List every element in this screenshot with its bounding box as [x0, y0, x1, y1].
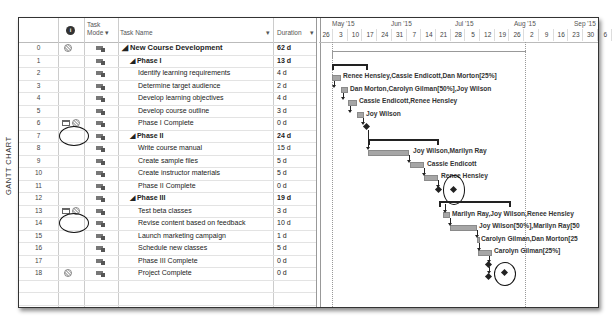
row-number[interactable]: 15: [19, 230, 58, 243]
task-bar-10[interactable]: [424, 175, 438, 181]
recurring-task-icon[interactable]: [64, 269, 72, 277]
row-number[interactable]: 1: [19, 55, 58, 68]
task-mode-cell[interactable]: [84, 130, 118, 143]
row-number[interactable]: 13: [19, 205, 58, 218]
task-name-cell[interactable]: Determine target audience: [118, 80, 294, 93]
note-icon[interactable]: [62, 120, 70, 126]
task-name-cell[interactable]: Launch marketing campaign: [118, 230, 294, 243]
table-row[interactable]: 8Write course manual15 d: [19, 142, 316, 156]
task-mode-cell[interactable]: [84, 180, 118, 193]
task-mode-cell[interactable]: [84, 192, 118, 205]
task-name-cell[interactable]: Schedule new classes: [118, 242, 294, 255]
task-name-cell[interactable]: Phase III Complete: [118, 255, 294, 268]
task-name-cell[interactable]: Create instructor materials: [118, 167, 294, 180]
task-bar-14[interactable]: [450, 225, 477, 231]
table-row[interactable]: 17Phase III Complete0 d: [19, 255, 316, 269]
task-name-cell[interactable]: Create sample files: [118, 155, 294, 168]
summary-bar-phase-2[interactable]: [368, 139, 439, 141]
row-number[interactable]: 9: [19, 155, 58, 168]
duration-cell[interactable]: 5 d: [274, 167, 316, 180]
row-number[interactable]: 6: [19, 117, 58, 130]
task-name-cell[interactable]: ◢ New Course Development: [118, 42, 278, 55]
row-number[interactable]: 8: [19, 142, 58, 155]
duration-cell[interactable]: 10 d: [274, 217, 316, 230]
task-bar-9[interactable]: [410, 162, 424, 168]
task-name-cell[interactable]: Test beta classes: [118, 205, 294, 218]
duration-cell[interactable]: 2 d: [274, 80, 316, 93]
row-number[interactable]: 16: [19, 242, 58, 255]
table-row[interactable]: 11Phase II Complete0 d: [19, 180, 316, 194]
task-mode-cell[interactable]: [84, 242, 118, 255]
duration-filter-arrow[interactable]: ▾: [310, 29, 314, 37]
task-mode-cell[interactable]: [84, 255, 118, 268]
table-row[interactable]: 1◢ Phase I13 d: [19, 55, 316, 69]
task-mode-cell[interactable]: [84, 42, 118, 55]
row-number[interactable]: 4: [19, 92, 58, 105]
task-mode-cell[interactable]: [84, 117, 118, 130]
duration-cell[interactable]: 0 d: [274, 267, 316, 280]
row-number[interactable]: 0: [19, 42, 58, 55]
task-mode-cell[interactable]: [84, 217, 118, 230]
task-mode-cell[interactable]: [84, 230, 118, 243]
task-mode-cell[interactable]: [84, 105, 118, 118]
empty-row[interactable]: [19, 292, 316, 306]
duration-cell[interactable]: 15 d: [274, 142, 316, 155]
duration-cell[interactable]: 62 d: [274, 42, 316, 55]
duration-cell[interactable]: 0 d: [274, 255, 316, 268]
task-name-cell[interactable]: ◢ Phase I: [118, 55, 286, 68]
row-number[interactable]: 3: [19, 80, 58, 93]
summary-bar-phase-3[interactable]: [439, 201, 511, 203]
task-name-cell[interactable]: Revise content based on feedback: [118, 217, 294, 230]
table-row[interactable]: 16Schedule new classes5 d: [19, 242, 316, 256]
duration-cell[interactable]: 13 d: [274, 55, 316, 68]
duration-cell[interactable]: 0 d: [274, 117, 316, 130]
task-name-cell[interactable]: Identify learning requirements: [118, 67, 294, 80]
task-mode-cell[interactable]: [84, 142, 118, 155]
duration-cell[interactable]: 4 d: [274, 92, 316, 105]
task-name-cell[interactable]: ◢ Phase II: [118, 130, 286, 143]
row-number[interactable]: 5: [19, 105, 58, 118]
task-mode-cell[interactable]: [84, 167, 118, 180]
table-row[interactable]: 5Develop course outline3 d: [19, 105, 316, 119]
task-name-header[interactable]: Task Name ▾: [120, 29, 270, 36]
task-name-cell[interactable]: ◢ Phase III: [118, 192, 286, 205]
duration-cell[interactable]: 3 d: [274, 105, 316, 118]
row-number[interactable]: 11: [19, 180, 58, 193]
table-row[interactable]: 15Launch marketing campaign1 d: [19, 230, 316, 244]
table-row[interactable]: 3Determine target audience2 d: [19, 80, 316, 94]
duration-cell[interactable]: 5 d: [274, 242, 316, 255]
duration-cell[interactable]: 19 d: [274, 192, 316, 205]
project-summary-bar[interactable]: [332, 51, 526, 53]
milestone-project-complete[interactable]: [485, 273, 492, 280]
row-number[interactable]: 17: [19, 255, 58, 268]
table-row[interactable]: 9Create sample files5 d: [19, 155, 316, 169]
task-mode-cell[interactable]: [84, 267, 118, 280]
task-name-cell[interactable]: Phase I Complete: [118, 117, 294, 130]
task-name-cell[interactable]: Write course manual: [118, 142, 294, 155]
duration-cell[interactable]: 0 d: [274, 180, 316, 193]
table-row[interactable]: 18Project Complete0 d: [19, 267, 316, 281]
task-mode-cell[interactable]: [84, 205, 118, 218]
task-name-cell[interactable]: Develop learning objectives: [118, 92, 294, 105]
empty-row[interactable]: [19, 280, 316, 294]
task-mode-header[interactable]: Task Mode ▾: [87, 21, 109, 37]
summary-bar-phase-1[interactable]: [332, 64, 368, 66]
recurring-task-icon[interactable]: [64, 44, 72, 52]
duration-cell[interactable]: 1 d: [274, 230, 316, 243]
table-row[interactable]: 2Identify learning requirements4 d: [19, 67, 316, 81]
duration-cell[interactable]: 24 d: [274, 130, 316, 143]
task-name-cell[interactable]: Project Complete: [118, 267, 294, 280]
task-name-cell[interactable]: Phase II Complete: [118, 180, 294, 193]
task-bar-8[interactable]: [368, 150, 409, 156]
duration-cell[interactable]: 3 d: [274, 205, 316, 218]
task-mode-cell[interactable]: [84, 92, 118, 105]
duration-cell[interactable]: 5 d: [274, 155, 316, 168]
row-number[interactable]: 2: [19, 67, 58, 80]
task-mode-cell[interactable]: [84, 55, 118, 68]
task-mode-cell[interactable]: [84, 80, 118, 93]
task-name-cell[interactable]: Develop course outline: [118, 105, 294, 118]
table-row[interactable]: 12◢ Phase III19 d: [19, 192, 316, 206]
row-number[interactable]: 18: [19, 267, 58, 280]
table-row[interactable]: 4Develop learning objectives4 d: [19, 92, 316, 106]
row-number[interactable]: 10: [19, 167, 58, 180]
